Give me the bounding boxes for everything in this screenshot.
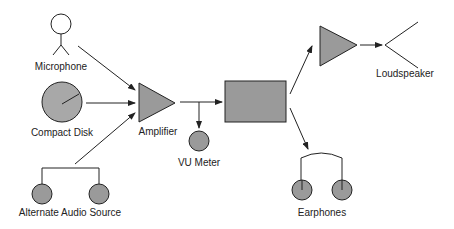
earphones-label: Earphones [298, 207, 346, 218]
power-amplifier-icon [320, 26, 357, 66]
alternate-audio-source-node: Alternate Audio Source [19, 168, 122, 218]
edge-processor-power-amplifier [290, 46, 312, 94]
microphone-node: Microphone [35, 14, 88, 72]
disc-icon [42, 82, 82, 122]
edge-processor-earphones [290, 108, 308, 149]
compact-disk-node: Compact Disk [31, 82, 94, 138]
microphone-label: Microphone [35, 61, 88, 72]
rectangle-box-icon [225, 81, 286, 122]
earphones-node: Earphones [292, 153, 352, 218]
microphone-icon [51, 14, 71, 55]
loudspeaker-node: Loudspeaker [376, 22, 434, 79]
vu-meter-label: VU Meter [178, 157, 221, 168]
loudspeaker-label: Loudspeaker [376, 68, 434, 79]
compact-disk-label: Compact Disk [31, 127, 94, 138]
edge-alternate-source-amplifier [75, 113, 135, 164]
headset-source-icon [32, 168, 109, 204]
processor-node [225, 81, 286, 122]
amplifier-icon [139, 83, 175, 122]
vu-meter-icon [189, 131, 209, 151]
power-amplifier-node [320, 26, 357, 66]
audio-signal-flow-diagram: Microphone Compact Disk Alternate Audio … [0, 0, 454, 229]
earphones-icon [292, 153, 352, 200]
vu-meter-node: VU Meter [178, 131, 221, 168]
speaker-cone-icon [385, 22, 418, 68]
amplifier-label: Amplifier [139, 126, 179, 137]
amplifier-node: Amplifier [139, 83, 179, 137]
alternate-audio-source-label: Alternate Audio Source [19, 207, 122, 218]
